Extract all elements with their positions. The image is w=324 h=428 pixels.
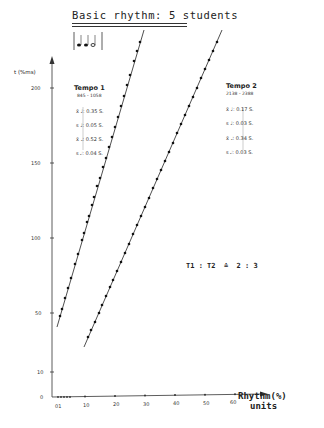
y-tick-label: 50 bbox=[35, 310, 41, 316]
x-tick-label: 60 bbox=[230, 399, 236, 405]
x-tick-label: 30 bbox=[143, 401, 149, 407]
tempo2-stat: x̄ ♩: 0.17 S. bbox=[226, 106, 254, 112]
tempo2-stat: x̄ 𝅗𝅥: 0.34 S. bbox=[226, 135, 253, 142]
y-tick-label: 10 bbox=[37, 369, 43, 375]
x-axis-label-line2: units bbox=[238, 401, 287, 411]
tempo2-title: Tempo 2 bbox=[226, 82, 257, 90]
tempo2-range: 2138 - 2388 bbox=[226, 91, 253, 96]
tempo1-title: Tempo 1 bbox=[74, 84, 105, 92]
y-tick-label: 150 bbox=[31, 160, 41, 166]
y-axis-label: t (%ms) bbox=[14, 69, 36, 75]
tempo1-range: 845 - 1058 bbox=[77, 93, 102, 98]
tempo-ratio-annotation: T1 : T2 ≐ 2 : 3 bbox=[186, 262, 258, 270]
tempo2-stat: s ♩: 0.03 S. bbox=[226, 120, 253, 126]
tempo2-stat: s 𝅗𝅥: 0.03 S. bbox=[226, 149, 253, 156]
plot-area bbox=[0, 0, 324, 428]
x-axis-label-line1: Rhythm(%) bbox=[238, 391, 287, 401]
x-tick-label: 01 bbox=[55, 403, 61, 409]
x-tick-label: 40 bbox=[173, 400, 179, 406]
tempo1-stat: s 𝅗𝅥: 0.04 S. bbox=[76, 150, 103, 157]
y-tick-label: 100 bbox=[31, 235, 41, 241]
x-tick-label: 10 bbox=[83, 402, 89, 408]
y-tick-label: 0 bbox=[40, 394, 43, 400]
y-tick-label: 200 bbox=[31, 85, 41, 91]
tempo1-stat: s ♩: 0.05 S. bbox=[76, 122, 103, 128]
x-axis-label: Rhythm(%) units bbox=[238, 391, 287, 411]
tempo1-stat: x̄ 𝅗𝅥: 0.52 S. bbox=[76, 136, 103, 143]
tempo1-stat: x̄ ♩: 0.35 S. bbox=[76, 108, 104, 114]
x-tick-label: 50 bbox=[203, 400, 209, 406]
x-tick-label: 20 bbox=[113, 401, 119, 407]
